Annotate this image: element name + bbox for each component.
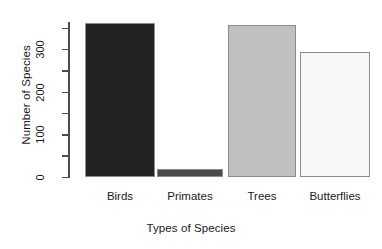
x-axis-category-label: Trees bbox=[228, 190, 296, 202]
x-axis-category-label: Birds bbox=[85, 190, 155, 202]
x-axis-title: Types of Species bbox=[0, 222, 382, 234]
bar-chart: Number of Species 0100200300 BirdsPrimat… bbox=[0, 0, 382, 249]
bar-trees bbox=[228, 25, 296, 178]
bar-primates bbox=[157, 169, 223, 178]
bar-butterflies bbox=[300, 52, 370, 178]
plot-area: BirdsPrimatesTreesButterflies bbox=[0, 0, 382, 249]
x-axis-category-label: Primates bbox=[157, 190, 223, 202]
x-axis-category-label: Butterflies bbox=[300, 190, 370, 202]
bar-birds bbox=[85, 23, 155, 177]
